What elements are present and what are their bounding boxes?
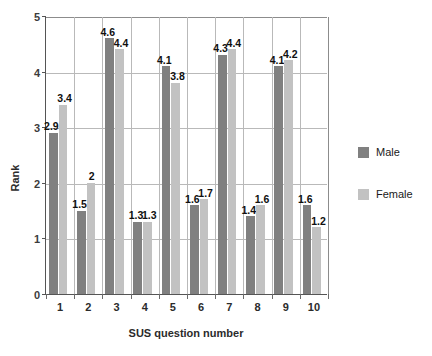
bar-value-label: 4.1 [157, 55, 172, 66]
bar-group: 1.52 [74, 17, 102, 294]
x-tick-label: 1 [57, 301, 63, 313]
plot-inner: 0123452.93.411.5224.64.431.31.344.13.851… [46, 17, 327, 294]
x-tick-label: 5 [170, 301, 176, 313]
x-tick-mark [187, 294, 188, 299]
chart-legend: Male Female [358, 146, 432, 230]
bar-male: 4.1 [274, 66, 283, 294]
bar-female: 4.4 [115, 49, 124, 294]
x-gridline [328, 17, 329, 294]
bar-female: 3.8 [171, 83, 180, 294]
y-tick-label: 3 [34, 122, 40, 134]
bar-group: 2.93.4 [46, 17, 74, 294]
bar-value-label: 4.6 [101, 27, 116, 38]
x-tick-label: 10 [308, 301, 320, 313]
y-tick-label: 5 [34, 11, 40, 23]
x-tick-label: 9 [283, 301, 289, 313]
bar-group: 4.64.4 [102, 17, 130, 294]
y-tick-label: 2 [34, 178, 40, 190]
bar-group: 1.61.2 [300, 17, 328, 294]
bar-female: 1.3 [143, 222, 152, 294]
x-tick-label: 6 [198, 301, 204, 313]
x-tick-label: 2 [85, 301, 91, 313]
bar-female: 4.2 [284, 60, 293, 294]
y-axis-title: Rank [9, 165, 21, 192]
bar-male: 1.5 [77, 211, 86, 294]
x-tick-mark [74, 294, 75, 299]
y-tick-label: 0 [34, 289, 40, 301]
legend-swatch-female-icon [358, 189, 369, 200]
bar-male: 1.6 [190, 205, 199, 294]
bar-female: 1.7 [200, 199, 209, 294]
x-tick-label: 4 [142, 301, 148, 313]
y-tick-label: 1 [34, 233, 40, 245]
x-tick-label: 8 [254, 301, 260, 313]
bar-female: 3.4 [59, 105, 68, 294]
bar-value-label: 2.9 [44, 121, 59, 132]
bar-value-label: 1.2 [311, 216, 326, 227]
bar-female: 4.4 [228, 49, 237, 294]
y-tick-label: 4 [34, 67, 40, 79]
x-axis-title: SUS question number [45, 327, 327, 339]
x-tick-mark [102, 294, 103, 299]
x-tick-mark [272, 294, 273, 299]
bar-value-label: 1.6 [255, 194, 270, 205]
bar-value-label: 3.4 [57, 93, 72, 104]
plot-area: 0123452.93.411.5224.64.431.31.344.13.851… [45, 17, 327, 295]
x-tick-mark [243, 294, 244, 299]
bar-value-label: 1.6 [298, 194, 313, 205]
bar-male: 4.3 [218, 55, 227, 294]
legend-item-male: Male [358, 146, 432, 158]
bar-value-label: 3.8 [170, 71, 185, 82]
bar-value-label: 1.3 [142, 210, 157, 221]
legend-swatch-male-icon [358, 147, 369, 158]
bar-group: 1.31.3 [131, 17, 159, 294]
bar-male: 2.9 [49, 133, 58, 294]
x-tick-mark [328, 294, 329, 299]
legend-item-female: Female [358, 188, 432, 200]
bar-male: 4.6 [105, 38, 114, 294]
legend-label-female: Female [376, 188, 413, 200]
bar-group: 4.14.2 [272, 17, 300, 294]
bar-male: 1.6 [303, 205, 312, 294]
bar-male: 1.4 [246, 216, 255, 294]
x-tick-mark [159, 294, 160, 299]
bar-female: 1.2 [312, 227, 321, 294]
bar-value-label: 4.4 [114, 38, 129, 49]
x-tick-mark [131, 294, 132, 299]
x-tick-label: 7 [226, 301, 232, 313]
bar-value-label: 2 [89, 171, 95, 182]
x-tick-label: 3 [113, 301, 119, 313]
bar-group: 1.61.7 [187, 17, 215, 294]
bar-value-label: 1.5 [72, 199, 87, 210]
legend-label-male: Male [376, 146, 400, 158]
bar-group: 4.34.4 [215, 17, 243, 294]
bar-group: 1.41.6 [243, 17, 271, 294]
x-tick-mark [215, 294, 216, 299]
x-tick-mark [46, 294, 47, 299]
bar-male: 1.3 [133, 222, 142, 294]
bar-value-label: 4.2 [283, 49, 298, 60]
bar-value-label: 1.4 [242, 205, 257, 216]
bar-value-label: 1.7 [198, 188, 213, 199]
bar-female: 2 [87, 183, 96, 294]
bar-male: 4.1 [162, 66, 171, 294]
bar-female: 1.6 [256, 205, 265, 294]
bar-chart: Rank 0123452.93.411.5224.64.431.31.344.1… [0, 0, 432, 356]
x-tick-mark [300, 294, 301, 299]
bar-group: 4.13.8 [159, 17, 187, 294]
bar-value-label: 4.4 [227, 38, 242, 49]
